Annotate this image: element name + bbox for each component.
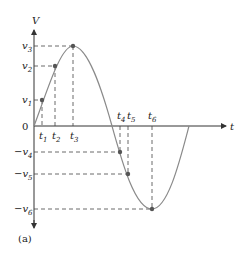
v5-label: −v5	[14, 168, 33, 182]
origin-label: 0	[22, 121, 28, 132]
v1-label: v1	[22, 94, 32, 108]
t6-label: t6	[148, 110, 157, 124]
sine-wave-diagram: V t 0 (a) v1 v2 v3 −v4 −v5 −v6 t1 t2 t3 …	[0, 0, 251, 258]
t-axis-label: t	[230, 121, 235, 132]
t3-label: t3	[70, 130, 79, 144]
t1-label: t1	[39, 130, 48, 144]
t4-label: t4	[117, 110, 126, 124]
sine-curve	[34, 46, 189, 209]
figure-caption: (a)	[18, 233, 32, 244]
t5-label: t5	[127, 110, 136, 124]
v4-label: −v4	[14, 146, 33, 160]
v-axis-label: V	[32, 15, 41, 26]
v2-label: v2	[22, 60, 33, 74]
v3-label: v3	[22, 40, 33, 54]
data-points	[40, 44, 154, 211]
v6-label: −v6	[14, 203, 33, 217]
t2-label: t2	[52, 130, 61, 144]
